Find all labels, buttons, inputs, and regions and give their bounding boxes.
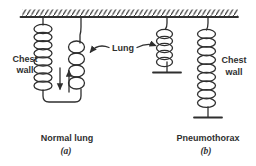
spring-coil (198, 98, 216, 107)
chest-wall-spring-b (198, 29, 216, 107)
chest-wall-label-right-line1: Chest (221, 55, 246, 65)
lung-spring-diagram: Chest wall Lung Chest wall Normal lung (… (0, 0, 256, 166)
spring-coil (157, 57, 173, 66)
chest-wall-spring-b-hanger (207, 17, 209, 30)
lung-spring-b (157, 29, 173, 66)
caption-a-title: Normal lung (41, 133, 94, 143)
chest-wall-label-left-line2: wall (15, 65, 33, 75)
chest-wall-label-right-line2: wall (224, 67, 242, 77)
lung-spring-a-hanger (80, 17, 81, 43)
pneumothorax-assembly (153, 17, 222, 118)
ceiling-hatch (22, 10, 238, 18)
spring-coil (198, 72, 216, 81)
normal-lung-assembly (34, 17, 85, 102)
spring-coil (198, 90, 216, 99)
spring-coil (198, 38, 216, 47)
spring-coil (69, 65, 85, 77)
lung-arrow-left (91, 46, 110, 52)
caption-b-tag: (b) (200, 146, 211, 157)
chest-wall-label-left-line1: Chest (12, 54, 37, 64)
bottom-bracket (43, 89, 81, 102)
spring-coil (198, 47, 216, 56)
lung-arrow-right (137, 44, 156, 47)
lung-spring-b-hanger (166, 17, 168, 29)
diagram-canvas: Chest wall Lung Chest wall Normal lung (… (0, 0, 256, 166)
spring-coil (69, 53, 85, 65)
spring-coil (69, 41, 85, 53)
caption-a-tag: (a) (60, 146, 71, 157)
spring-coil (198, 29, 216, 38)
caption-b-title: Pneumothorax (176, 133, 239, 143)
spring-coil (198, 55, 216, 64)
ceiling (21, 10, 239, 18)
spring-coil (198, 81, 216, 90)
spring-coil (198, 64, 216, 73)
lung-spring-a (69, 41, 85, 89)
spring-coil (69, 77, 85, 89)
lung-label: Lung (112, 43, 134, 53)
